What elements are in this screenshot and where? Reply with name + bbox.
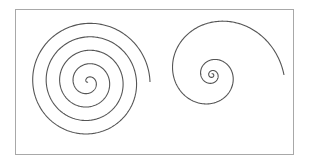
spirals-canvas <box>0 0 309 163</box>
archimedean-spiral <box>33 23 150 134</box>
logarithmic-spiral <box>173 21 284 104</box>
